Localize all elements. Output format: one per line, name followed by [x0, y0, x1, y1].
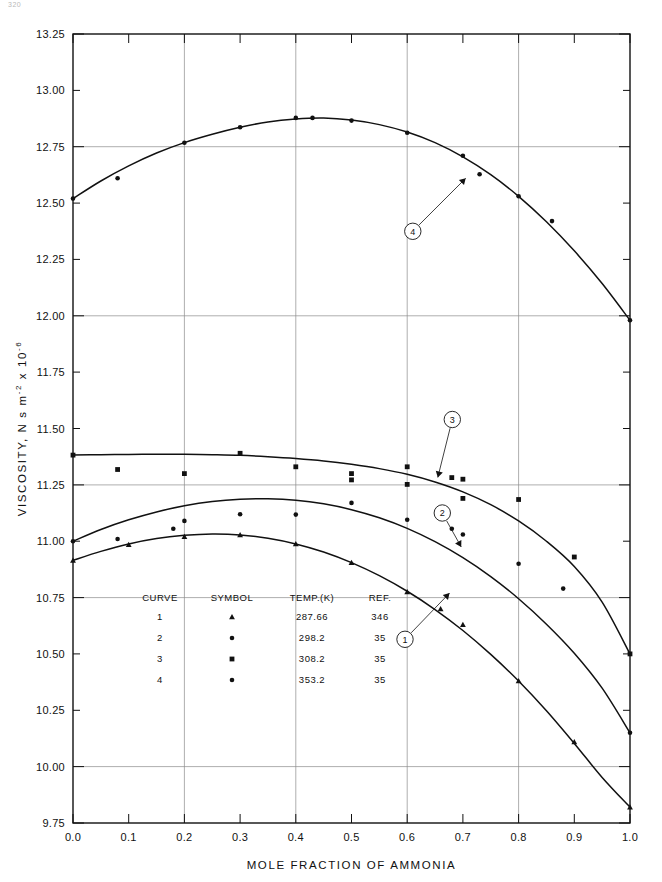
data-point-3	[349, 478, 354, 483]
data-point-2	[405, 518, 410, 523]
data-point-2	[561, 586, 566, 591]
data-point-3	[182, 471, 187, 476]
data-point-3	[628, 652, 633, 657]
y-tick-label: 10.00	[36, 761, 65, 773]
viscosity-vs-mole-fraction-chart: 9.7510.0010.2510.5010.7511.0011.2511.501…	[0, 0, 662, 882]
y-tick-labels: 9.7510.0010.2510.5010.7511.0011.2511.501…	[36, 28, 65, 829]
data-point-3	[293, 464, 298, 469]
y-tick-label: 12.25	[36, 253, 65, 265]
data-point-4	[477, 172, 482, 177]
data-point-2	[461, 532, 466, 537]
y-tick-label: 12.75	[36, 141, 65, 153]
data-point-2	[349, 501, 354, 506]
x-axis-title: MOLE FRACTION OF AMMONIA	[247, 859, 457, 871]
data-point-2	[71, 539, 76, 544]
legend-curve-number: 2	[157, 632, 163, 643]
y-tick-label: 11.50	[37, 423, 65, 435]
data-point-4	[115, 176, 120, 181]
data-point-4	[628, 318, 633, 323]
curve-line-1	[73, 534, 630, 807]
y-tick-label: 11.00	[37, 535, 65, 547]
x-tick-label: 0.3	[232, 831, 248, 843]
legend-temperature: 353.2	[299, 674, 325, 685]
data-point-3	[71, 453, 76, 458]
callout-label: 3	[450, 415, 455, 425]
data-point-4	[461, 153, 466, 158]
callout-arrowhead	[436, 471, 443, 478]
callout-label: 1	[402, 635, 407, 645]
x-tick-label: 0.9	[566, 831, 582, 843]
data-point-3	[461, 477, 466, 482]
legend-temperature: 308.2	[299, 653, 325, 664]
data-point-4	[238, 125, 243, 130]
legend-table: CURVESYMBOLTEMP.(K)REF.1287.663462298.23…	[142, 592, 391, 685]
data-point-3	[405, 482, 410, 487]
callout-leader-line	[438, 428, 450, 477]
data-point-2	[171, 527, 176, 532]
data-point-3	[516, 497, 521, 502]
legend-reference: 35	[374, 653, 386, 664]
data-point-4	[71, 196, 76, 201]
data-point-3	[349, 471, 354, 476]
y-tick-label: 10.50	[36, 648, 65, 660]
x-tick-label: 0.4	[288, 831, 304, 843]
data-point-3	[405, 464, 410, 469]
legend-temperature: 287.66	[296, 611, 328, 622]
y-tick-label: 10.75	[36, 592, 65, 604]
data-point-4	[182, 140, 187, 145]
data-point-2	[182, 519, 187, 524]
x-tick-label: 0.7	[455, 831, 471, 843]
legend-symbol-4	[230, 678, 235, 683]
x-tick-label: 0.0	[65, 831, 81, 843]
data-point-4	[349, 118, 354, 123]
data-point-3	[461, 496, 466, 501]
data-point-1	[438, 606, 444, 611]
callout-label: 4	[410, 227, 415, 237]
legend-curve-number: 3	[157, 653, 163, 664]
legend-reference: 35	[374, 674, 386, 685]
series-1	[70, 532, 633, 810]
callout-3: 3	[436, 411, 461, 477]
legend-header-0: CURVE	[142, 592, 178, 603]
legend-reference: 35	[374, 632, 386, 643]
data-point-1	[460, 622, 466, 627]
data-point-4	[405, 130, 410, 135]
callout-2: 2	[434, 505, 461, 547]
x-tick-label: 0.1	[121, 831, 137, 843]
legend-symbol-1	[229, 614, 235, 619]
data-point-4	[294, 116, 299, 121]
y-tick-label: 9.75	[42, 817, 65, 829]
y-tick-label: 11.75	[37, 366, 65, 378]
legend-curve-number: 4	[157, 674, 163, 685]
legend-temperature: 298.2	[299, 632, 325, 643]
data-point-3	[449, 475, 454, 480]
legend-symbol-3	[230, 657, 235, 662]
y-tick-label: 13.25	[36, 28, 65, 40]
x-tick-label: 0.6	[399, 831, 415, 843]
y-tick-label: 13.00	[36, 84, 65, 96]
y-tick-label: 12.50	[36, 197, 65, 209]
x-tick-label: 0.2	[176, 831, 192, 843]
curve-line-4	[73, 118, 630, 320]
data-point-2	[238, 512, 243, 517]
callout-leader-line	[411, 593, 449, 633]
legend-reference: 346	[371, 611, 388, 622]
legend-header-1: SYMBOL	[211, 592, 254, 603]
series-2	[71, 499, 633, 735]
callout-label: 2	[440, 508, 445, 518]
legend-header-2: TEMP.(K)	[290, 592, 334, 603]
data-point-3	[572, 555, 577, 560]
data-point-4	[310, 116, 315, 121]
data-point-4	[550, 219, 555, 224]
y-tick-label: 11.25	[37, 479, 65, 491]
legend-curve-number: 1	[157, 611, 163, 622]
callout-leader-line	[419, 178, 466, 225]
callout-4: 4	[405, 178, 466, 239]
data-point-2	[628, 731, 633, 736]
data-point-2	[516, 562, 521, 567]
y-axis-title: VISCOSITY, N s m-2 x 10-6	[14, 341, 28, 516]
data-point-2	[294, 512, 299, 517]
figure-container: 320 9.7510.0010.2510.5010.7511.0011.2511…	[0, 0, 662, 882]
page-number: 320	[8, 1, 21, 8]
x-tick-label: 0.5	[343, 831, 359, 843]
